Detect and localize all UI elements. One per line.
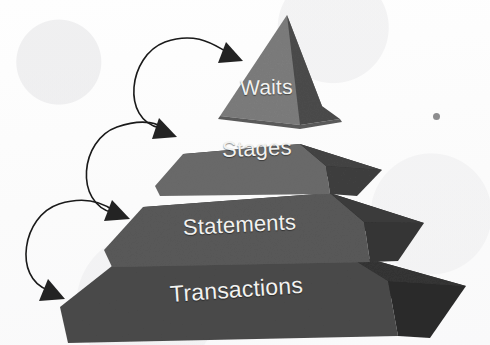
arrow-to-stages-curve bbox=[86, 122, 162, 213]
arrow-annotations bbox=[0, 0, 490, 345]
arrow-to-transactions bbox=[39, 279, 65, 301]
arrow-to-waits-curve bbox=[134, 38, 227, 128]
pyramid-diagram-canvas: Waits Stages Statements Transactions bbox=[0, 0, 490, 345]
arrow-to-statements bbox=[26, 200, 130, 290]
arrow-to-waits bbox=[134, 38, 243, 128]
arrow-to-transactions-head bbox=[39, 279, 65, 301]
arrow-to-waits-head bbox=[218, 42, 243, 63]
arrow-to-stages bbox=[86, 118, 177, 213]
arrow-to-stages-head bbox=[152, 118, 177, 139]
arrow-to-statements-curve bbox=[26, 200, 114, 290]
